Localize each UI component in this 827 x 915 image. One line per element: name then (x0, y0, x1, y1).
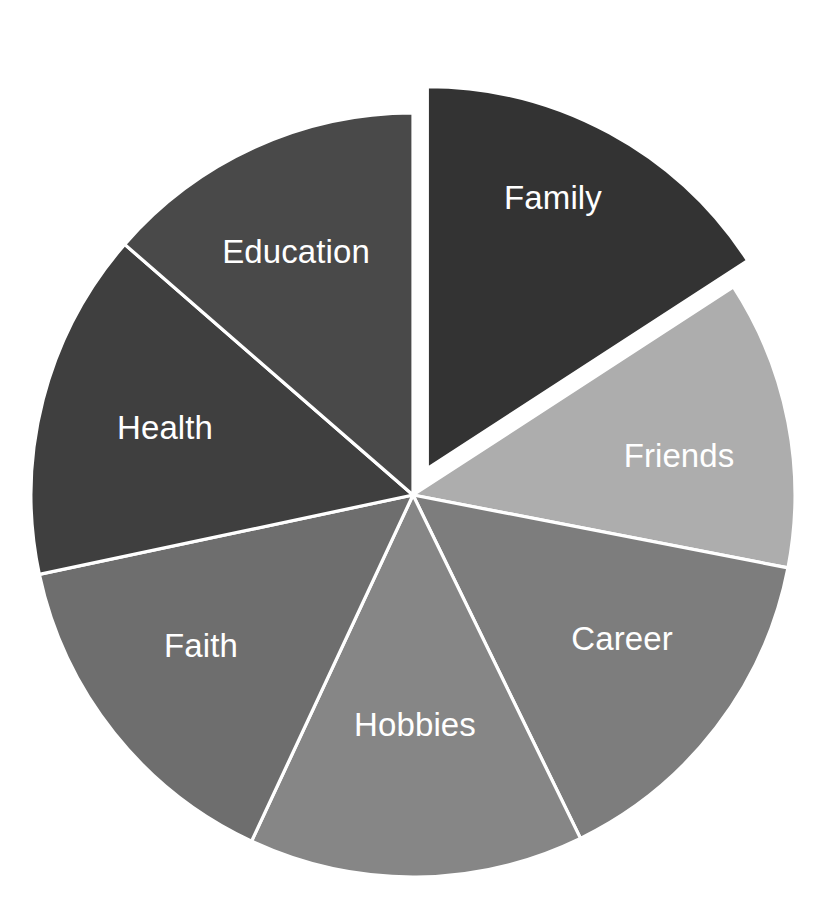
pie-slice-label-faith: Faith (164, 627, 238, 664)
pie-slice-label-career: Career (571, 620, 672, 657)
pie-slice-label-friends: Friends (624, 437, 735, 474)
pie-slice-label-health: Health (117, 409, 213, 446)
pie-slice-label-family: Family (504, 179, 602, 216)
pie-slice-label-hobbies: Hobbies (354, 706, 476, 743)
pie-chart-canvas: FamilyFriendsCareerHobbiesFaithHealthEdu… (0, 0, 827, 915)
pie-chart-figure: FamilyFriendsCareerHobbiesFaithHealthEdu… (0, 0, 827, 915)
pie-slice-label-education: Education (222, 233, 370, 270)
